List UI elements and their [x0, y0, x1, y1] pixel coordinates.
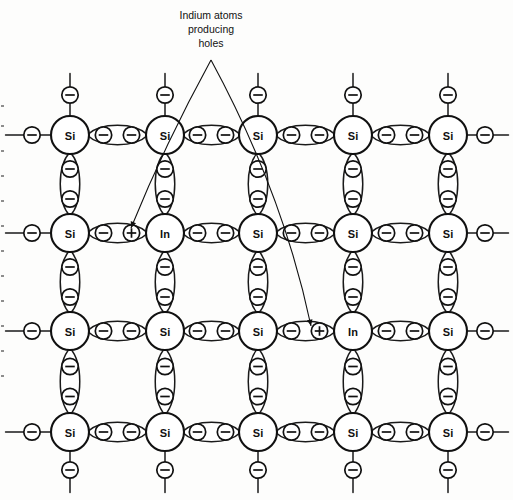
electron-symbol: [250, 289, 266, 305]
electron-symbol: [123, 424, 139, 440]
electron-symbol: [311, 424, 327, 440]
electron-symbol: [250, 161, 266, 177]
margin-tick: [1, 300, 4, 302]
annotation-caption: Indium atoms producing holes: [179, 9, 242, 49]
atom-label: Si: [65, 326, 75, 338]
electron-symbol: [62, 191, 78, 207]
electron-symbol: [250, 358, 266, 374]
electron-symbol: [378, 127, 394, 143]
margin-tick: [1, 250, 4, 252]
electron-symbol: [477, 323, 493, 339]
atom-label: In: [160, 228, 170, 240]
electron-symbol: [62, 462, 78, 478]
electron-symbol: [157, 289, 173, 305]
scan-margin-marks: [1, 105, 4, 377]
electron-symbol: [217, 225, 233, 241]
electron-symbol: [24, 323, 40, 339]
atom-label: Si: [160, 130, 170, 142]
electron-symbol: [345, 87, 361, 103]
margin-tick: [1, 175, 4, 177]
atom-silicon: Si: [429, 214, 467, 252]
caption-line-1: Indium atoms: [179, 9, 242, 21]
electron-symbol: [345, 388, 361, 404]
atom-silicon: Si: [334, 413, 372, 451]
electron-symbol: [62, 358, 78, 374]
electron-symbol: [62, 289, 78, 305]
electron-symbol: [95, 127, 111, 143]
atom-label: Si: [65, 228, 75, 240]
electron-symbol: [378, 424, 394, 440]
caption-line-3: holes: [198, 37, 223, 49]
electron-symbol: [123, 323, 139, 339]
electron-symbol: [62, 87, 78, 103]
electron-symbol: [378, 323, 394, 339]
electron-symbol: [345, 462, 361, 478]
electron-symbol: [24, 424, 40, 440]
atom-silicon: Si: [334, 214, 372, 252]
electron-symbol: [217, 323, 233, 339]
atom-label: Si: [253, 130, 263, 142]
caption-line-2: producing: [188, 23, 234, 35]
atom-silicon: Si: [51, 214, 89, 252]
margin-tick: [1, 150, 4, 152]
atom-silicon: Si: [429, 312, 467, 350]
atom-label: Si: [65, 130, 75, 142]
atom-silicon: Si: [334, 116, 372, 154]
hole-symbol: [311, 323, 327, 339]
electron-symbol: [311, 225, 327, 241]
electron-symbol: [406, 424, 422, 440]
atom-label: Si: [253, 326, 263, 338]
atom-label: In: [348, 326, 358, 338]
electron-symbol: [406, 323, 422, 339]
atom-label: Si: [348, 130, 358, 142]
electron-symbol: [311, 127, 327, 143]
electron-symbol: [345, 161, 361, 177]
electron-symbol: [440, 191, 456, 207]
atom-label: Si: [160, 326, 170, 338]
electron-symbol: [406, 127, 422, 143]
atom-label: Si: [65, 427, 75, 439]
electron-symbol: [189, 225, 205, 241]
electron-symbol: [440, 161, 456, 177]
margin-tick: [1, 275, 4, 277]
electron-symbol: [217, 424, 233, 440]
electron-symbol: [283, 323, 299, 339]
electron-symbol: [250, 259, 266, 275]
electron-symbol: [440, 462, 456, 478]
electron-symbol: [157, 87, 173, 103]
atom-silicon: Si: [239, 413, 277, 451]
margin-tick: [1, 225, 4, 227]
atom-silicon: Si: [429, 413, 467, 451]
atom-label: Si: [443, 326, 453, 338]
electron-symbol: [62, 259, 78, 275]
atom-silicon: Si: [51, 413, 89, 451]
margin-tick: [1, 200, 4, 202]
electron-symbol: [189, 127, 205, 143]
electron-symbol: [157, 388, 173, 404]
electron-symbol: [189, 424, 205, 440]
atom-silicon: Si: [146, 312, 184, 350]
electron-symbol: [477, 225, 493, 241]
atom-silicon: Si: [239, 116, 277, 154]
electron-symbol: [250, 87, 266, 103]
margin-tick: [1, 375, 4, 377]
electron-symbol: [345, 358, 361, 374]
electron-symbol: [217, 127, 233, 143]
margin-tick: [1, 350, 4, 352]
atom-label: Si: [253, 427, 263, 439]
electron-symbol: [123, 127, 139, 143]
margin-tick: [1, 325, 4, 327]
electron-symbol: [157, 462, 173, 478]
electron-symbol: [250, 191, 266, 207]
atom-silicon: Si: [239, 214, 277, 252]
electron-symbol: [440, 358, 456, 374]
electron-symbol: [157, 191, 173, 207]
electron-symbol: [62, 161, 78, 177]
electron-symbol: [477, 424, 493, 440]
atom-silicon: Si: [146, 413, 184, 451]
lattice-diagram: SiSiSiSiSiSiInSiSiSiSiSiSiInSiSiSiSiSiSi…: [0, 0, 513, 500]
electron-symbol: [283, 127, 299, 143]
electron-symbol: [378, 225, 394, 241]
atom-silicon: Si: [51, 312, 89, 350]
electron-symbol: [345, 259, 361, 275]
